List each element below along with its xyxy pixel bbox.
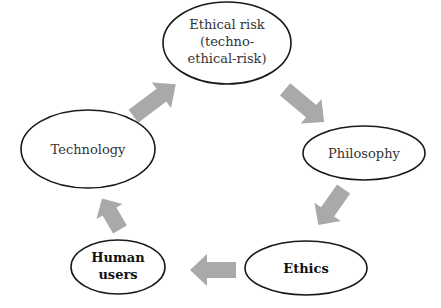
arrow-ethical-risk-to-philosophy <box>275 77 335 134</box>
node-ethical-risk-line-3: ethical-risk) <box>187 51 266 66</box>
arrow-human-users-to-technology <box>89 191 133 237</box>
node-ethics: Ethics <box>245 241 367 295</box>
node-human-users: Human users <box>71 240 165 294</box>
node-ethics-label: Ethics <box>283 261 329 276</box>
node-technology: Technology <box>21 110 155 188</box>
node-ethical-risk-line-2: (techno- <box>200 34 254 49</box>
node-ethical-risk: Ethical risk (techno- ethical-risk) <box>163 2 291 84</box>
node-human-users-line-1: Human <box>91 250 145 265</box>
cycle-diagram: Ethical risk (techno- ethical-risk) Tech… <box>0 0 441 308</box>
node-human-users-line-2: users <box>98 267 137 282</box>
node-philosophy-label: Philosophy <box>328 146 400 161</box>
node-ethical-risk-line-1: Ethical risk <box>189 17 265 32</box>
node-philosophy: Philosophy <box>303 126 425 180</box>
arrow-philosophy-to-ethics <box>305 180 356 234</box>
arrow-ethics-to-human-users <box>190 254 236 286</box>
node-technology-label: Technology <box>51 142 127 157</box>
